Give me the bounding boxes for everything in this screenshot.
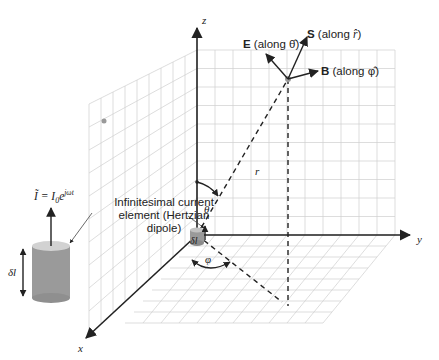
y-axis-label: y — [416, 233, 422, 245]
e-vector-label: E (along θ̂) — [243, 38, 299, 50]
back-wall-grid — [197, 50, 395, 235]
radius-line — [197, 79, 288, 235]
floor-grid — [125, 235, 395, 323]
current-equation: Ĩ = I0ejωt — [33, 188, 75, 205]
stray-point — [102, 119, 107, 124]
x-axis-label: x — [77, 342, 83, 354]
r-label: r — [255, 165, 260, 177]
diagram-canvas: z y x r θ φ δl Infinitesimal current ele… — [0, 0, 439, 360]
b-vector — [288, 71, 318, 79]
svg-text:element (Hertzian: element (Hertzian — [119, 209, 210, 221]
s-vector-label: S (along r̂) — [307, 28, 362, 40]
dipole-large-cylinder — [32, 241, 70, 303]
phi-label: φ — [205, 253, 211, 265]
delta-l-large-label: δl — [8, 266, 16, 278]
delta-l-small-label: δl — [190, 235, 198, 246]
z-axis-label: z — [201, 14, 207, 26]
b-vector-label: B (along φ̂) — [321, 65, 379, 77]
side-wall-grid — [89, 50, 197, 334]
svg-text:dipole): dipole) — [147, 222, 182, 234]
svg-text:Infinitesimal current: Infinitesimal current — [114, 196, 215, 208]
x-axis — [86, 235, 197, 338]
